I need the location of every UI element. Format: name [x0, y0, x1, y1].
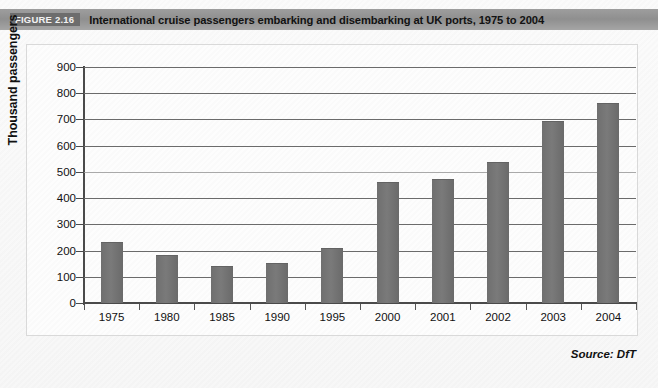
x-axis-tick-label: 2003: [523, 311, 583, 323]
bar: [542, 121, 564, 303]
x-axis-tick-mark: [581, 304, 582, 310]
y-axis-tick-label: 900: [36, 61, 76, 73]
x-axis-tick-label: 1985: [192, 311, 252, 323]
bar: [321, 248, 343, 303]
y-axis-tick-mark: [76, 67, 83, 68]
y-axis-tick-label: 400: [36, 192, 76, 204]
bar: [487, 162, 509, 303]
bar: [377, 182, 399, 303]
y-axis-tick-label: 500: [36, 166, 76, 178]
source-note: Source: DfT: [571, 348, 636, 360]
x-axis-tick-mark: [415, 304, 416, 310]
bar: [266, 263, 288, 303]
y-axis-tick-label: 200: [36, 245, 76, 257]
y-axis-tick-mark: [76, 146, 83, 147]
x-axis-tick-mark: [194, 304, 195, 310]
bar: [156, 255, 178, 303]
y-axis-tick-mark: [76, 277, 83, 278]
x-axis-tick-label: 2004: [578, 311, 638, 323]
x-axis-tick-mark: [305, 304, 306, 310]
x-axis-tick-label: 2002: [468, 311, 528, 323]
x-axis-tick-label: 1975: [82, 311, 142, 323]
bar: [101, 242, 123, 303]
y-axis-title: Thousand passengers: [6, 0, 20, 185]
x-axis-tick-mark: [139, 304, 140, 310]
x-axis-tick-mark: [636, 304, 637, 310]
x-axis-tick-label: 1995: [302, 311, 362, 323]
bar: [432, 179, 454, 303]
x-axis-tick-mark: [526, 304, 527, 310]
y-axis-tick-mark: [76, 172, 83, 173]
y-axis-tick-mark: [76, 198, 83, 199]
y-axis-tick-label: 600: [36, 140, 76, 152]
x-axis-tick-label: 1980: [137, 311, 197, 323]
y-axis-tick-label: 800: [36, 87, 76, 99]
x-axis-tick-mark: [470, 304, 471, 310]
y-axis-tick-label: 700: [36, 113, 76, 125]
figure-number-tag: FIGURE 2.16: [10, 13, 80, 27]
y-axis-tick-mark: [76, 251, 83, 252]
y-axis-tick-mark: [76, 93, 83, 94]
x-axis-tick-mark: [84, 304, 85, 310]
x-axis-tick-mark: [250, 304, 251, 310]
y-axis-tick-label: 300: [36, 218, 76, 230]
bar: [597, 103, 619, 303]
page-title: International cruise passengers embarkin…: [89, 14, 544, 26]
bars-layer: [84, 67, 636, 303]
figure-header-band: FIGURE 2.16 International cruise passeng…: [0, 9, 658, 30]
y-axis-tick-label: 100: [36, 271, 76, 283]
figure-container: FIGURE 2.16 International cruise passeng…: [0, 0, 658, 388]
x-axis-tick-label: 1990: [247, 311, 307, 323]
x-axis-tick-label: 2000: [358, 311, 418, 323]
y-axis-tick-label: 0: [36, 297, 76, 309]
x-axis-tick-mark: [360, 304, 361, 310]
x-axis-tick-label: 2001: [413, 311, 473, 323]
y-axis-tick-mark: [76, 224, 83, 225]
bar: [211, 266, 233, 303]
y-axis-tick-mark: [76, 119, 83, 120]
y-axis-tick-mark: [76, 303, 83, 304]
